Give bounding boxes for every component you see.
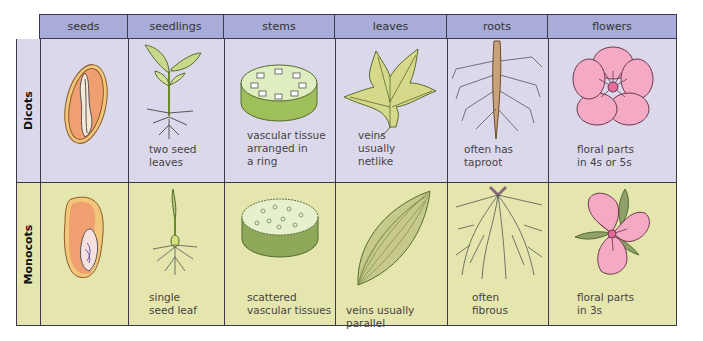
cell-dicot-roots: often has taproot	[447, 39, 548, 182]
column-header-seedlings: seedlings	[127, 14, 224, 39]
cell-monocot-stems: scattered vascular tissues	[224, 183, 335, 325]
cell-monocot-leaves: veins usually parallel	[335, 183, 447, 325]
cell-monocot-seedlings: single seed leaf	[128, 183, 224, 325]
monocot-seed-icon	[61, 193, 111, 283]
dicot-flower-icon	[571, 45, 655, 129]
monocot-flower-icon	[571, 185, 655, 281]
caption-monocot-seedlings: single seed leaf	[149, 291, 197, 317]
caption-dicot-roots: often has taproot	[464, 143, 513, 169]
caption-dicot-stems: vascular tissue arranged in a ring	[247, 129, 326, 168]
cell-dicot-flowers: floral parts in 4s or 5s	[548, 39, 678, 182]
row-monocots: Monocots single seed leaf	[16, 182, 677, 326]
dicot-stem-cross-section-icon	[239, 61, 319, 123]
caption-monocot-flowers: floral parts in 3s	[577, 291, 634, 317]
column-header-roots: roots	[446, 14, 548, 39]
cell-dicot-leaves: veins usually netlike	[335, 39, 447, 182]
column-header-leaves: leaves	[334, 14, 447, 39]
dicot-seedling-icon	[139, 41, 209, 141]
caption-dicot-flowers: floral parts in 4s or 5s	[577, 143, 634, 169]
cell-monocot-roots: often fibrous	[447, 183, 548, 325]
dicot-netveined-leaf-icon	[340, 47, 440, 137]
cell-dicot-stems: vascular tissue arranged in a ring	[224, 39, 335, 182]
caption-dicot-leaves: veins usually netlike	[358, 129, 395, 168]
column-header-stems: stems	[223, 14, 335, 39]
monocot-fibrous-root-icon	[454, 185, 544, 281]
column-header-flowers: flowers	[547, 14, 677, 39]
cell-dicot-seeds	[40, 39, 128, 182]
caption-monocot-stems: scattered vascular tissues	[247, 291, 331, 317]
caption-dicot-seedlings: two seed leaves	[149, 143, 197, 169]
dicot-seed-icon	[61, 59, 111, 149]
row-label-dicots: Dicots	[17, 39, 40, 182]
cell-monocot-flowers: floral parts in 3s	[548, 183, 678, 325]
cell-monocot-seeds	[40, 183, 128, 325]
row-label-monocots: Monocots	[17, 183, 40, 325]
monocot-seedling-icon	[147, 187, 207, 277]
monocot-parallel-leaf-icon	[350, 189, 440, 289]
row-dicots: Dicots two seed leaves	[16, 39, 677, 183]
caption-monocot-leaves: veins usually parallel	[346, 304, 447, 330]
cell-dicot-seedlings: two seed leaves	[128, 39, 224, 182]
dicot-taproot-icon	[452, 39, 544, 141]
monocot-stem-cross-section-icon	[239, 195, 321, 259]
column-header-seeds: seeds	[39, 14, 128, 39]
caption-monocot-roots: often fibrous	[472, 291, 508, 317]
